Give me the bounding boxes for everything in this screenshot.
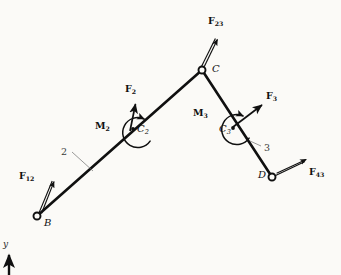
force-f43-shaft-a [276, 162, 305, 176]
link-label-2: 2 [61, 147, 67, 157]
joint-label-b: B [44, 218, 51, 228]
joint-label-c: C [212, 64, 220, 74]
center-label-c3: C3 [219, 124, 231, 134]
y-axis-label: y [3, 240, 8, 249]
joint-c-pin [199, 67, 206, 74]
force-f43-shaft-b [277, 159, 307, 173]
link-label-3: 3 [264, 143, 270, 153]
center-label-c2: C2 [137, 124, 149, 134]
force-label-f43: F43 [309, 167, 324, 177]
link-2-leader [72, 152, 93, 171]
force-label-f23: F23 [208, 16, 223, 26]
free-body-diagram-figure: B C D C2 C3 2 3 F12 F2 F23 F3 F43 M2 M3 [0, 0, 341, 275]
joint-b-pin [34, 213, 41, 220]
force-f3-shaft [233, 105, 262, 127]
center-c2-dot [131, 127, 135, 131]
joint-d-pin [269, 174, 276, 181]
joint-label-d: D [258, 170, 266, 180]
force-f12-shaft-b [42, 182, 54, 214]
force-label-f2: F2 [125, 84, 136, 94]
force-label-f12: F12 [19, 171, 34, 181]
moment-label-m3: M3 [193, 108, 208, 118]
force-label-f3: F3 [266, 91, 277, 101]
link-2-body [37, 70, 202, 216]
moment-label-m2: M2 [95, 121, 110, 131]
center-c3-dot [231, 126, 235, 130]
diagram-canvas [0, 0, 341, 275]
